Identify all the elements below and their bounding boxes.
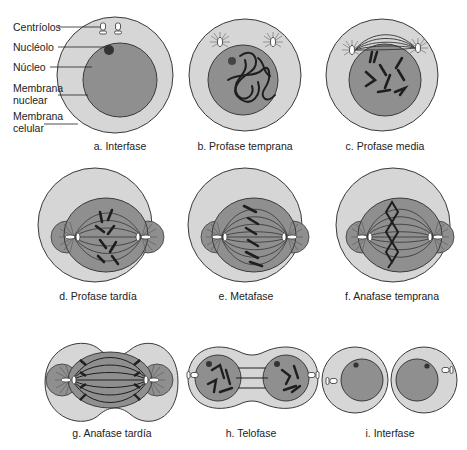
label-centriolos: Centríolos xyxy=(13,21,61,33)
stage-h-telophase-cell xyxy=(187,347,319,408)
stage-f-early-anaphase-cell xyxy=(336,168,454,282)
label-membrana-celular-line2: celular xyxy=(13,122,63,134)
label-membrana-celular: Membrana celular xyxy=(13,110,63,134)
label-nucleo: Núcleo xyxy=(13,61,46,73)
label-membrana-nuclear-line2: nuclear xyxy=(13,94,63,106)
caption-stage-e: e. Metafase xyxy=(219,290,274,302)
mitosis-diagram xyxy=(0,0,467,450)
caption-stage-f: f. Anafase temprana xyxy=(345,290,439,302)
stage-g-late-anaphase-cell xyxy=(45,343,178,421)
stage-e-metaphase-cell xyxy=(188,168,309,282)
caption-stage-d: d. Profase tardía xyxy=(59,290,137,302)
caption-stage-h: h. Telofase xyxy=(226,427,277,439)
stage-b-early-prophase-cell xyxy=(189,19,301,131)
caption-stage-a: a. Interfase xyxy=(94,140,147,152)
label-membrana-nuclear: Membrana nuclear xyxy=(13,82,63,106)
caption-stage-b: b. Profase temprana xyxy=(197,140,292,152)
label-nucleolo: Nucléolo xyxy=(13,41,54,53)
caption-stage-c: c. Profase media xyxy=(346,140,425,152)
caption-stage-i: i. Interfase xyxy=(365,427,414,439)
stage-a-interphase-cell xyxy=(44,17,173,133)
label-membrana-celular-line1: Membrana xyxy=(13,110,63,122)
caption-stage-g: g. Anafase tardía xyxy=(72,427,151,439)
stage-i-interphase-cells xyxy=(322,347,457,413)
stage-d-late-prophase-cell xyxy=(38,168,164,282)
label-membrana-nuclear-line1: Membrana xyxy=(13,82,63,94)
stage-c-mid-prophase-cell xyxy=(326,19,438,131)
